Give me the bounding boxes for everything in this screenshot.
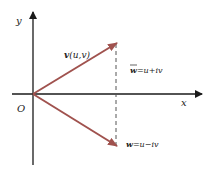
vector-w-arrow	[33, 94, 117, 146]
origin-label: O	[17, 103, 25, 114]
vector-w-label: w=u−iv	[126, 139, 159, 149]
diagram-canvas: y x O v(u,v) w=u+iv w=u−iv	[0, 0, 211, 176]
conjugate-label: w=u+iv	[130, 65, 163, 75]
vector-v-label: v(u,v)	[64, 50, 90, 60]
x-axis-label: x	[181, 97, 187, 108]
y-axis-label: y	[15, 15, 22, 26]
